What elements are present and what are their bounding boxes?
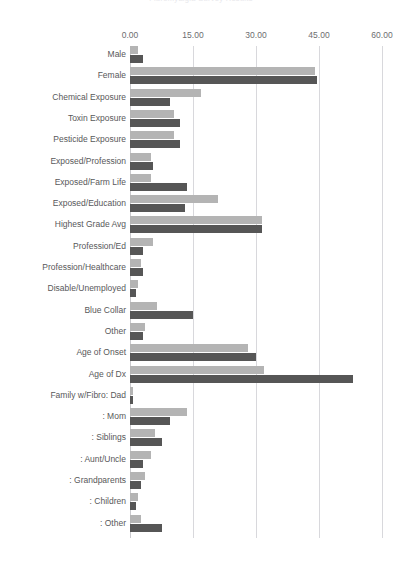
category-label: Exposed/Education [0,199,126,208]
bar-group [130,216,382,234]
bar [130,268,143,276]
category-label: : Grandparents [0,476,126,485]
chart-title: Fibromyalgia Survey Results [0,0,402,3]
bar-group [130,387,382,405]
bar [130,366,264,374]
bar [130,140,180,148]
x-tick-label: 45.00 [308,30,329,40]
bar [130,195,218,203]
bar-group [130,472,382,490]
bar-group [130,195,382,213]
bar [130,323,145,331]
bar-group [130,259,382,277]
category-label: Female [0,71,126,80]
bar [130,396,133,404]
bar-group [130,493,382,511]
bar [130,472,145,480]
category-label: Age of Dx [0,370,126,379]
bar-group [130,451,382,469]
bar [130,259,141,267]
bar [130,119,180,127]
bar [130,89,201,97]
bar-group [130,366,382,384]
category-axis-labels: MaleFemaleChemical ExposureToxin Exposur… [0,46,126,538]
bar [130,289,136,297]
bar-group [130,323,382,341]
bar-group [130,89,382,107]
category-label: : Siblings [0,433,126,442]
category-label: Highest Grade Avg [0,220,126,229]
bar [130,76,317,84]
x-tick-label: 0.00 [122,30,139,40]
bar-group [130,153,382,171]
bar [130,515,141,523]
bar-group [130,131,382,149]
bar [130,502,136,510]
category-label: : Aunt/Uncle [0,455,126,464]
bar [130,451,151,459]
bar [130,174,151,182]
bar-group [130,67,382,85]
bar [130,153,151,161]
bar [130,524,162,532]
category-label: Family w/Fibro: Dad [0,391,126,400]
bar-group [130,174,382,192]
bar [130,225,262,233]
bar [130,183,187,191]
category-label: Exposed/Farm Life [0,178,126,187]
x-tick-label: 15.00 [182,30,203,40]
category-label: Exposed/Profession [0,157,126,166]
bar [130,204,185,212]
bar [130,280,138,288]
bar-group [130,110,382,128]
category-label: : Other [0,519,126,528]
bar [130,55,143,63]
bar [130,110,174,118]
bar [130,429,155,437]
plot-area [130,46,382,538]
gridline [382,46,383,538]
category-label: : Children [0,497,126,506]
category-label: Male [0,50,126,59]
bar-group [130,344,382,362]
bar [130,302,157,310]
bar-rows [130,46,382,538]
bar [130,417,170,425]
bar-group [130,408,382,426]
bar [130,98,170,106]
category-label: Pesticide Exposure [0,135,126,144]
bar [130,493,138,501]
bar [130,46,138,54]
bar-group [130,46,382,64]
bar [130,247,143,255]
bar [130,460,143,468]
bar-chart: Fibromyalgia Survey Results 0.0015.0030.… [0,0,402,563]
bar-group [130,280,382,298]
category-label: Profession/Ed [0,242,126,251]
category-label: Age of Onset [0,348,126,357]
category-label: Chemical Exposure [0,93,126,102]
bar [130,162,153,170]
category-label: Toxin Exposure [0,114,126,123]
category-label: : Mom [0,412,126,421]
bar [130,481,141,489]
bar [130,387,133,395]
bar [130,353,256,361]
bar [130,216,262,224]
category-label: Blue Collar [0,306,126,315]
bar [130,238,153,246]
bar [130,332,143,340]
bar-group [130,302,382,320]
bar [130,344,248,352]
bar [130,438,162,446]
bar [130,375,353,383]
bar [130,408,187,416]
x-tick-label: 60.00 [371,30,392,40]
bar-group [130,515,382,533]
x-tick-label: 30.00 [245,30,266,40]
category-label: Other [0,327,126,336]
category-label: Disable/Unemployed [0,284,126,293]
bar-group [130,238,382,256]
bar [130,131,174,139]
x-axis-tick-labels: 0.0015.0030.0045.0060.00 [0,30,402,42]
